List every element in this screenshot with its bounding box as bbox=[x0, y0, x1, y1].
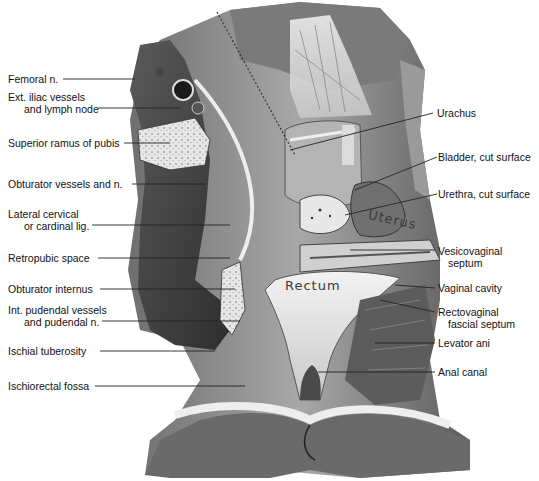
label-levator-ani: Levator ani bbox=[438, 337, 490, 349]
anatomical-illustration bbox=[0, 0, 539, 481]
label-urethra-cut-surface: Urethra, cut surface bbox=[438, 188, 530, 200]
label-lateral-cervical-lig: Lateral cervical or cardinal lig. bbox=[8, 208, 89, 232]
bladder bbox=[285, 121, 362, 207]
label-ext-iliac-vessels: Ext. iliac vessels and lymph node bbox=[8, 91, 99, 115]
label-femoral-nerve: Femoral n. bbox=[8, 73, 58, 85]
label-vaginal-cavity: Vaginal cavity bbox=[438, 282, 502, 294]
label-rectovaginal-fascial-septum: Rectovaginal fascial septum bbox=[438, 306, 515, 330]
label-ischiorectal-fossa: Ischiorectal fossa bbox=[8, 380, 89, 392]
label-superior-ramus-pubis: Superior ramus of pubis bbox=[8, 137, 119, 149]
label-anal-canal: Anal canal bbox=[438, 366, 487, 378]
label-obturator-internus: Obturator internus bbox=[8, 283, 93, 295]
label-vesicovaginal-septum: Vesicovaginal septum bbox=[438, 245, 502, 269]
label-obturator-vessels: Obturator vessels and n. bbox=[8, 178, 122, 190]
label-int-pudendal-vessels: Int. pudendal vessels and pudendal n. bbox=[8, 304, 107, 328]
label-ischial-tuberosity: Ischial tuberosity bbox=[8, 345, 86, 357]
rectum-label: Rectum bbox=[285, 278, 341, 293]
label-urachus: Urachus bbox=[437, 107, 476, 119]
label-retropubic-space: Retropubic space bbox=[8, 252, 90, 264]
label-bladder-cut-surface: Bladder, cut surface bbox=[438, 151, 531, 163]
